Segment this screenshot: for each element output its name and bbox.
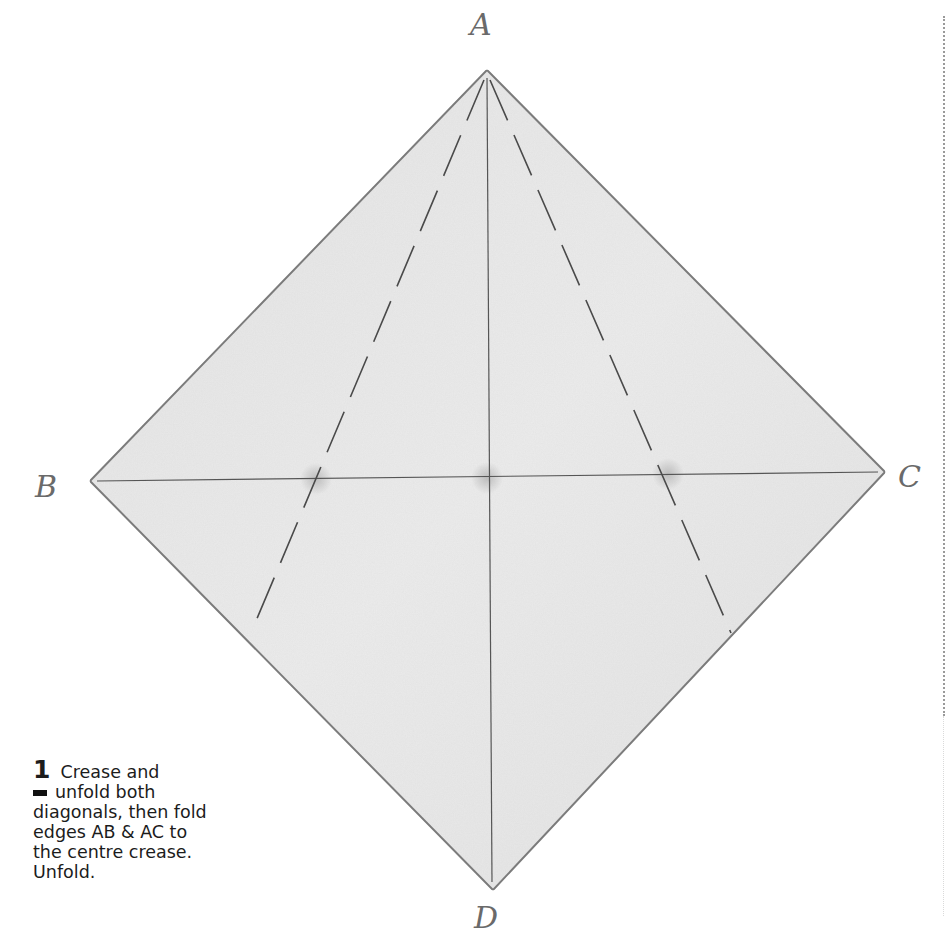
caption-line-3: diagonals, then fold	[33, 802, 233, 822]
step-underline-bar	[33, 790, 47, 796]
page-edge-dotted-line-fade	[943, 716, 944, 916]
step-caption: 1 Crease and unfold both diagonals, then…	[33, 760, 233, 882]
caption-line-5: the centre crease.	[33, 842, 233, 862]
vertex-label-d: D	[473, 900, 498, 935]
step-number: 1	[33, 760, 55, 780]
vertex-label-b: B	[34, 469, 57, 504]
vertex-label-c: C	[898, 459, 921, 494]
caption-line-6: Unfold.	[33, 862, 233, 882]
caption-line-4: edges AB & AC to	[33, 822, 233, 842]
page-edge-dotted-line	[943, 16, 945, 716]
caption-line-2: unfold both	[33, 782, 233, 802]
vertex-label-a: A	[467, 7, 492, 42]
caption-line-1: 1 Crease and	[33, 760, 233, 782]
